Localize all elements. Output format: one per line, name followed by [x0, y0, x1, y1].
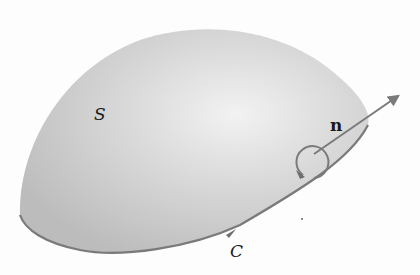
- stokes-diagram: S n C: [0, 0, 420, 275]
- normal-label: n: [330, 115, 342, 135]
- diagram-canvas: S n C: [0, 0, 420, 275]
- speck: [301, 218, 303, 220]
- surface-label: S: [94, 104, 106, 124]
- surface-s: [20, 29, 369, 253]
- boundary-label: C: [230, 241, 243, 261]
